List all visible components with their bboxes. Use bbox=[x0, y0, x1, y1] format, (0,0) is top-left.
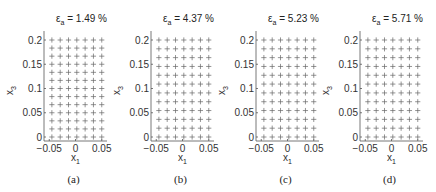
y-tick-label: 0.15 bbox=[130, 59, 150, 70]
y-tick-label: 0.2 bbox=[135, 35, 149, 46]
axes-frame bbox=[360, 31, 423, 141]
y-tick-label: 0 bbox=[36, 132, 42, 143]
x-axis-label: x1 bbox=[283, 152, 292, 165]
y-axis-label: x3 bbox=[320, 86, 333, 95]
panel-caption: (c) bbox=[279, 173, 292, 186]
y-tick-label: 0.1 bbox=[240, 83, 254, 94]
x-tick-label: 0.05 bbox=[92, 143, 112, 154]
y-tick-label: 0.2 bbox=[28, 35, 42, 46]
data-markers bbox=[49, 37, 104, 139]
y-tick-label: 0.2 bbox=[344, 35, 358, 46]
panel-caption: (a) bbox=[67, 173, 80, 186]
x-tick-label: −0.05 bbox=[353, 143, 379, 154]
y-tick-label: 0 bbox=[352, 132, 358, 143]
panel-caption: (d) bbox=[383, 173, 396, 186]
y-tick-label: 0 bbox=[143, 132, 149, 143]
panel-caption: (b) bbox=[174, 173, 187, 186]
y-tick-label: 0.15 bbox=[235, 59, 255, 70]
y-tick-label: 0.1 bbox=[28, 83, 42, 94]
x-tick-label: 0.05 bbox=[304, 143, 324, 154]
x-tick-label: −0.05 bbox=[37, 143, 63, 154]
x-axis-label: x1 bbox=[178, 152, 187, 165]
y-tick-label: 0.2 bbox=[240, 35, 254, 46]
y-axis-label: x3 bbox=[111, 86, 124, 95]
panel-title: εa = 4.37 % bbox=[163, 13, 214, 26]
panel-title: εa = 5.71 % bbox=[372, 13, 423, 26]
x-tick-label: 0.05 bbox=[408, 143, 428, 154]
y-tick-label: 0.05 bbox=[23, 107, 43, 118]
panel-b: 00.050.10.150.2−0.0500.05εa = 4.37 %x3x1… bbox=[111, 13, 219, 186]
x-axis-label: x1 bbox=[387, 152, 396, 165]
y-axis-label: x3 bbox=[4, 86, 17, 95]
y-tick-label: 0.15 bbox=[339, 59, 359, 70]
panel-c: 00.050.10.150.2−0.0500.05εa = 5.23 %x3x1… bbox=[216, 13, 324, 186]
y-axis-label: x3 bbox=[216, 86, 229, 95]
data-markers bbox=[261, 37, 316, 139]
panel-a: 00.050.10.150.2−0.0500.05εa = 1.49 %x3x1… bbox=[4, 13, 112, 186]
x-tick-label: 0.05 bbox=[199, 143, 219, 154]
data-markers bbox=[156, 37, 211, 139]
y-tick-label: 0.05 bbox=[235, 107, 255, 118]
axes-frame bbox=[151, 31, 214, 141]
x-axis-label: x1 bbox=[71, 152, 80, 165]
panel-title: εa = 1.49 % bbox=[56, 13, 107, 26]
figure: 00.050.10.150.2−0.0500.05εa = 1.49 %x3x1… bbox=[0, 0, 436, 192]
axes-frame bbox=[256, 31, 319, 141]
axes-frame bbox=[44, 31, 107, 141]
x-tick-label: −0.05 bbox=[144, 143, 170, 154]
data-markers bbox=[365, 37, 420, 139]
y-tick-label: 0.1 bbox=[344, 83, 358, 94]
x-tick-label: −0.05 bbox=[249, 143, 275, 154]
panel-d: 00.050.10.150.2−0.0500.05εa = 5.71 %x3x1… bbox=[320, 13, 428, 186]
panel-title: εa = 5.23 % bbox=[268, 13, 319, 26]
y-tick-label: 0.1 bbox=[135, 83, 149, 94]
y-tick-label: 0.05 bbox=[130, 107, 150, 118]
y-tick-label: 0.05 bbox=[339, 107, 359, 118]
y-tick-label: 0.15 bbox=[23, 59, 43, 70]
y-tick-label: 0 bbox=[248, 132, 254, 143]
